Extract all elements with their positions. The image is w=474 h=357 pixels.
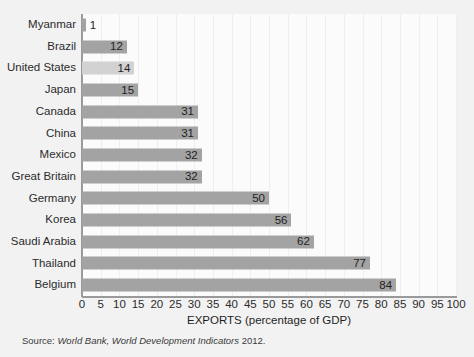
bar-value-label: 14 [118,62,135,74]
bar-container: 32 [82,148,202,161]
bar-container: 84 [82,279,396,292]
x-tick-label: 0 [79,299,85,311]
bar-value-label: 50 [252,193,269,205]
x-tick-label: 80 [375,299,388,311]
bar-container: 14 [82,62,134,75]
category-label: United States [0,62,76,74]
bar-value-label: 56 [275,214,292,226]
bar: 15 [82,83,138,96]
bar-row: Brazil12 [0,36,474,58]
source-year: 2012. [239,335,265,346]
x-tick-label: 50 [263,299,276,311]
bar-value-label: 12 [110,41,127,53]
x-tick-label: 60 [300,299,313,311]
x-tick-label: 25 [169,299,182,311]
bar-rows: Myanmar1Brazil12United States14Japan15Ca… [0,14,474,296]
x-tick-label: 55 [281,299,294,311]
x-tick-label: 90 [412,299,425,311]
chart-figure: Myanmar1Brazil12United States14Japan15Ca… [0,0,474,357]
x-axis-ticks: 0510152025303540455055606570758085909510… [0,299,474,313]
category-label: Mexico [0,149,76,161]
bar-value-label: 32 [185,149,202,161]
bar-value-label: 84 [379,279,396,291]
bar-row: Canada31 [0,101,474,123]
bar: 32 [82,148,202,161]
bar-row: Myanmar1 [0,14,474,36]
bar-highlighted: 14 [82,62,134,75]
bar-row: Germany50 [0,188,474,210]
bar: 12 [82,40,127,53]
x-tick-label: 15 [132,299,145,311]
bar-container: 12 [82,40,127,53]
bar-container: 77 [82,257,370,270]
category-label: Belgium [0,279,76,291]
bar-row: Mexico32 [0,144,474,166]
x-tick-label: 95 [431,299,444,311]
bar-value-label: 31 [181,128,198,140]
bar-container: 31 [82,127,198,140]
bar-container: 15 [82,83,138,96]
category-label: Myanmar [0,19,76,31]
x-tick-label: 70 [337,299,350,311]
category-label: China [0,128,76,140]
bar-container: 1 [82,18,86,31]
bar-container: 32 [82,170,202,183]
bar: 31 [82,105,198,118]
category-label: Great Britain [0,171,76,183]
x-tick-label: 75 [356,299,369,311]
bar-value-label: 62 [297,236,314,248]
category-label: Brazil [0,41,76,53]
bar-container: 31 [82,105,198,118]
bar-value-label: 31 [181,106,198,118]
bar: 31 [82,127,198,140]
bar: 50 [82,192,269,205]
bar-row: China31 [0,122,474,144]
bar-container: 62 [82,235,314,248]
source-prefix: Source: [22,335,57,346]
category-label: Saudi Arabia [0,236,76,248]
category-label: Korea [0,214,76,226]
x-tick-label: 20 [150,299,163,311]
bar: 84 [82,279,396,292]
bar-row: Belgium84 [0,274,474,296]
x-tick-label: 10 [113,299,126,311]
x-tick-label: 40 [225,299,238,311]
bar-row: Japan15 [0,79,474,101]
bar-value-label: 32 [185,171,202,183]
category-label: Germany [0,193,76,205]
category-label: Japan [0,84,76,96]
x-tick-label: 65 [319,299,332,311]
bar: 77 [82,257,370,270]
x-tick-label: 5 [97,299,103,311]
x-tick-label: 45 [244,299,257,311]
bar-row: Great Britain32 [0,166,474,188]
bar-row: Thailand77 [0,253,474,275]
bar-value-label: 77 [353,258,370,270]
bar-row: United States14 [0,57,474,79]
bar: 32 [82,170,202,183]
x-tick-label: 30 [188,299,201,311]
source-note: Source: World Bank, World Development In… [22,336,265,346]
bar-value-label: 15 [121,84,138,96]
bar: 62 [82,235,314,248]
bar-value-label: 1 [86,19,96,31]
x-tick-label: 35 [206,299,219,311]
bar-container: 56 [82,214,291,227]
x-tick-label: 100 [446,299,465,311]
x-tick-label: 85 [393,299,406,311]
x-axis-title: EXPORTS (percentage of GDP) [82,315,456,327]
source-publication: World Bank, World Development Indicators [57,335,239,346]
category-label: Thailand [0,258,76,270]
bar: 56 [82,214,291,227]
bar-row: Saudi Arabia62 [0,231,474,253]
bar-row: Korea56 [0,209,474,231]
bar-container: 50 [82,192,269,205]
category-label: Canada [0,106,76,118]
